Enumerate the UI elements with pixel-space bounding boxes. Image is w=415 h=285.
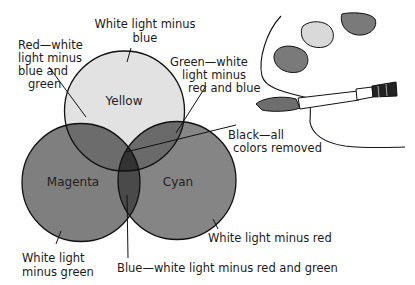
magenta-description-line-2: minus green: [22, 265, 94, 279]
yellow-description-line-1: White light minus: [94, 17, 195, 31]
yellow-description-line-2: blue: [133, 31, 158, 45]
paint-blob-right-icon: [341, 13, 376, 35]
cyan-label: Cyan: [163, 175, 193, 189]
color-venn-diagram: Yellow Magenta Cyan White light minus bl…: [0, 0, 415, 285]
black-description-line-1: Black—all: [228, 128, 284, 142]
green-description-line-1: Green—white: [170, 55, 248, 69]
black-description-line-2: colors removed: [233, 141, 322, 155]
green-description-line-3: red and blue: [188, 81, 261, 95]
green-description-line-2: light minus: [182, 68, 246, 82]
cyan-description: White light minus red: [208, 231, 332, 245]
blue-description: Blue—white light minus red and green: [117, 261, 338, 275]
red-description-line-2: light minus: [18, 51, 82, 65]
magenta-description-line-1: White light: [22, 251, 85, 265]
yellow-label: Yellow: [105, 94, 143, 108]
red-description-line-1: Red—white: [18, 38, 83, 52]
paint-blob-middle-icon: [301, 22, 333, 48]
magenta-label: Magenta: [47, 175, 99, 189]
paintbrush-icon: [256, 82, 397, 111]
paint-blob-left-icon: [274, 46, 308, 72]
red-description-line-4: green: [28, 77, 61, 91]
red-description-line-3: blue and: [18, 64, 68, 78]
